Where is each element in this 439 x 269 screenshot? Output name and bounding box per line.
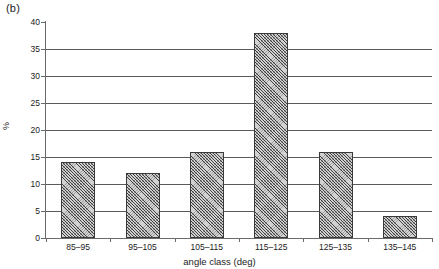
gridline (46, 49, 432, 50)
gridline (46, 22, 432, 23)
x-tick-mark (303, 238, 304, 242)
y-axis-title: % (1, 122, 11, 130)
y-tick-label: 0 (14, 234, 40, 243)
x-tick-label: 105–115 (175, 243, 239, 252)
bar (61, 162, 95, 238)
x-axis-title: angle class (deg) (0, 256, 439, 267)
x-tick-mark (110, 238, 111, 242)
y-tick-mark (41, 76, 46, 77)
figure-panel-b: (b) 0510152025303540 % angle class (deg)… (0, 0, 439, 269)
x-tick-label: 85–95 (46, 243, 110, 252)
gridline (46, 130, 432, 131)
y-tick-mark (41, 157, 46, 158)
bar (254, 33, 288, 238)
y-tick-label: 30 (14, 72, 40, 81)
y-tick-label: 20 (14, 126, 40, 135)
x-tick-label: 115–125 (239, 243, 303, 252)
x-tick-mark (432, 238, 433, 242)
bar (190, 152, 224, 238)
x-tick-mark (239, 238, 240, 242)
y-tick-mark (41, 211, 46, 212)
x-tick-label: 125–135 (304, 243, 368, 252)
gridline (46, 184, 432, 185)
gridline (46, 76, 432, 77)
x-tick-mark (46, 238, 47, 242)
x-tick-mark (175, 238, 176, 242)
x-tick-mark (368, 238, 369, 242)
y-tick-mark (41, 103, 46, 104)
y-tick-mark (41, 49, 46, 50)
y-tick-label: 15 (14, 153, 40, 162)
bar (126, 173, 160, 238)
y-tick-label: 40 (14, 18, 40, 27)
y-tick-mark (41, 184, 46, 185)
y-axis-ticks: 0510152025303540 (0, 0, 40, 269)
y-tick-label: 25 (14, 99, 40, 108)
y-tick-mark (41, 22, 46, 23)
plot-area (46, 22, 432, 238)
x-tick-label: 95–105 (111, 243, 175, 252)
y-tick-mark (41, 130, 46, 131)
gridline (46, 157, 432, 158)
x-tick-label: 135–145 (368, 243, 432, 252)
bar (319, 152, 353, 238)
y-tick-label: 35 (14, 45, 40, 54)
y-tick-label: 5 (14, 207, 40, 216)
gridline (46, 211, 432, 212)
y-tick-label: 10 (14, 180, 40, 189)
gridline (46, 103, 432, 104)
bar (383, 216, 417, 238)
